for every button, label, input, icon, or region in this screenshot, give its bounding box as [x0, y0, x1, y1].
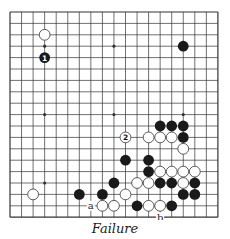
black-stone — [143, 166, 154, 177]
go-board: ab12 — [0, 0, 230, 220]
black-stone — [155, 121, 166, 132]
black-stone — [178, 41, 189, 52]
black-stone — [132, 200, 143, 211]
black-stone — [189, 178, 200, 189]
hoshi-point — [43, 113, 46, 116]
black-stone — [166, 200, 177, 211]
white-stone — [166, 166, 177, 177]
white-stone — [155, 166, 166, 177]
move-number-1: 1 — [42, 54, 47, 63]
white-stone — [178, 178, 189, 189]
white-stone — [39, 29, 50, 40]
black-stone — [189, 189, 200, 200]
white-stone — [178, 166, 189, 177]
hoshi-point — [182, 113, 185, 116]
black-stone — [178, 189, 189, 200]
black-stone — [166, 178, 177, 189]
white-stone — [143, 178, 154, 189]
point-label-b: b — [157, 212, 163, 220]
black-stone — [120, 155, 131, 166]
white-stone — [155, 200, 166, 211]
white-stone — [143, 132, 154, 143]
black-stone — [155, 178, 166, 189]
white-stone — [166, 132, 177, 143]
hoshi-point — [43, 45, 46, 48]
hoshi-point — [112, 45, 115, 48]
white-stone — [28, 189, 39, 200]
white-stone — [143, 200, 154, 211]
black-stone — [178, 132, 189, 143]
black-stone — [143, 155, 154, 166]
diagram-caption: Failure — [0, 221, 230, 236]
white-stone — [120, 189, 131, 200]
hoshi-point — [112, 113, 115, 116]
black-stone — [109, 178, 120, 189]
hoshi-point — [43, 181, 46, 184]
point-label-a: a — [88, 200, 94, 211]
white-stone — [97, 200, 108, 211]
black-stone — [166, 121, 177, 132]
black-stone — [74, 189, 85, 200]
black-stone — [97, 189, 108, 200]
white-stone — [109, 200, 120, 211]
black-stone — [178, 121, 189, 132]
move-number-2: 2 — [123, 133, 128, 142]
white-stone — [132, 178, 143, 189]
white-stone — [178, 143, 189, 154]
white-stone — [189, 166, 200, 177]
white-stone — [155, 132, 166, 143]
